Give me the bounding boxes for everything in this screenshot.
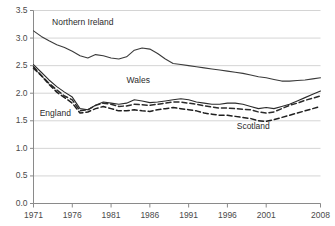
series-line-wales xyxy=(34,65,321,110)
x-tick-label: 1996 xyxy=(207,210,247,220)
series-label-wales: Wales xyxy=(127,75,150,85)
y-tick-label: 3.0 xyxy=(0,33,28,43)
x-tick-label: 1991 xyxy=(169,210,209,220)
series-label-northern-ireland: Northern Ireland xyxy=(52,17,113,27)
x-tick-label: 2008 xyxy=(301,210,335,220)
x-tick-label: 1981 xyxy=(91,210,131,220)
x-tick-label: 1971 xyxy=(14,210,54,220)
y-tick-label: 1.5 xyxy=(0,115,28,125)
line-chart: 0.00.51.01.52.02.53.03.5 197119761981198… xyxy=(0,0,335,226)
axis-ticks xyxy=(30,11,321,208)
y-tick-label: 3.5 xyxy=(0,5,28,15)
series-line-scotland xyxy=(34,67,321,122)
series-line-england xyxy=(34,68,321,113)
series-label-england: England xyxy=(40,108,71,118)
x-tick-label: 1976 xyxy=(52,210,92,220)
y-tick-label: 2.0 xyxy=(0,88,28,98)
x-tick-label: 2001 xyxy=(246,210,286,220)
x-tick-label: 1986 xyxy=(130,210,170,220)
series-label-scotland: Scotland xyxy=(237,121,270,131)
y-tick-label: 2.5 xyxy=(0,60,28,70)
y-tick-label: 0.0 xyxy=(0,198,28,208)
y-tick-label: 0.5 xyxy=(0,170,28,180)
y-tick-label: 1.0 xyxy=(0,143,28,153)
data-series xyxy=(34,31,321,121)
